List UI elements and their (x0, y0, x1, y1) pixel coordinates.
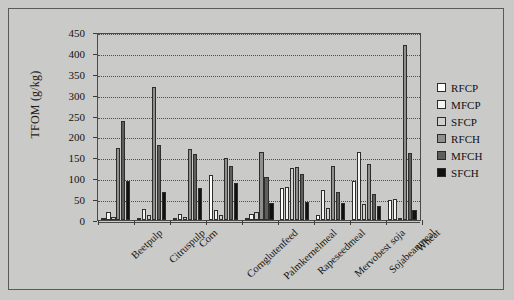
bar-mfch-4 (264, 177, 268, 220)
y-tick-mark-150 (93, 158, 97, 159)
bar-group (313, 34, 349, 220)
x-axis-labels: BeetpulpCitruspulpCornCornglutenfeedPalm… (97, 223, 421, 300)
bar-rfch-4 (259, 152, 263, 220)
bar-rfch-7 (367, 164, 371, 220)
figure-frame: TFOM (g/kg) 050100150200250300350400450 … (8, 8, 504, 290)
y-tick-mark-300 (93, 96, 97, 97)
legend-label: MFCP (451, 99, 481, 111)
bar-rfch-1 (152, 87, 156, 220)
y-tick-mark-100 (93, 179, 97, 180)
legend-item-rfch[interactable]: RFCH (437, 130, 509, 147)
y-tick-300: 300 (25, 90, 85, 102)
y-tick-mark-250 (93, 117, 97, 118)
y-tick-mark-50 (93, 200, 97, 201)
x-label-8: Wheat (415, 227, 443, 254)
legend-swatch-icon (437, 168, 446, 177)
bar-sfch-8 (412, 210, 416, 220)
bar-group (170, 34, 206, 220)
legend-swatch-icon (437, 151, 446, 160)
bar-rfch-6 (331, 166, 335, 220)
bar-rfcp-8 (388, 200, 392, 220)
bar-sfcp-6 (326, 208, 330, 220)
chart-legend: RFCPMFCPSFCPRFCHMFCHSFCH (437, 79, 509, 181)
bar-mfch-7 (372, 194, 376, 220)
legend-item-mfch[interactable]: MFCH (437, 147, 509, 164)
bar-mfch-1 (157, 145, 161, 220)
bar-group (277, 34, 313, 220)
x-tick-9 (422, 220, 423, 225)
bar-sfch-1 (162, 192, 166, 220)
bar-sfcp-4 (254, 212, 258, 220)
bar-mfch-8 (408, 153, 412, 220)
bar-mfcp-8 (393, 199, 397, 220)
bar-sfcp-5 (290, 168, 294, 220)
legend-label: RFCH (451, 133, 480, 145)
bar-sfch-7 (377, 206, 381, 220)
legend-swatch-icon (437, 100, 446, 109)
bar-group (241, 34, 277, 220)
bar-group (134, 34, 170, 220)
legend-item-mfcp[interactable]: MFCP (437, 96, 509, 113)
bar-sfch-5 (305, 202, 309, 220)
y-tick-mark-400 (93, 54, 97, 55)
y-tick-mark-200 (93, 137, 97, 138)
bar-rfcp-7 (352, 181, 356, 220)
y-tick-0: 0 (25, 215, 85, 227)
bar-mfch-6 (336, 192, 340, 220)
y-tick-350: 350 (25, 69, 85, 81)
legend-label: RFCP (451, 82, 478, 94)
bar-mfcp-7 (357, 152, 361, 220)
bar-mfcp-6 (321, 190, 325, 220)
bar-rfch-0 (116, 148, 120, 220)
chart-figure: TFOM (g/kg) 050100150200250300350400450 … (0, 0, 514, 300)
bar-group (98, 34, 134, 220)
legend-swatch-icon (437, 117, 446, 126)
bar-mfcp-5 (285, 187, 289, 220)
legend-item-sfch[interactable]: SFCH (437, 164, 509, 181)
bar-sfcp-7 (362, 204, 366, 220)
bar-mfcp-3 (214, 210, 218, 220)
bar-sfch-2 (198, 188, 202, 220)
bar-rfch-3 (224, 158, 228, 220)
legend-label: MFCH (451, 150, 483, 162)
legend-item-rfcp[interactable]: RFCP (437, 79, 509, 96)
y-tick-100: 100 (25, 173, 85, 185)
bar-mfch-0 (121, 121, 125, 220)
bar-group (384, 34, 420, 220)
bar-mfcp-0 (106, 212, 110, 220)
bar-rfch-5 (295, 167, 299, 220)
y-tick-450: 450 (25, 27, 85, 39)
bar-rfcp-3 (209, 175, 213, 220)
bar-mfcp-1 (142, 209, 146, 220)
plot-area (97, 33, 421, 221)
bar-rfch-8 (403, 45, 407, 220)
bar-mfch-2 (193, 154, 197, 220)
bar-sfch-6 (341, 203, 345, 220)
bar-rfcp-5 (280, 188, 284, 220)
y-tick-200: 200 (25, 131, 85, 143)
y-tick-400: 400 (25, 48, 85, 60)
bar-groups (98, 34, 420, 220)
bar-mfch-3 (229, 166, 233, 220)
legend-item-sfcp[interactable]: SFCP (437, 113, 509, 130)
y-tick-150: 150 (25, 152, 85, 164)
x-label-0: Beetpulp (130, 227, 165, 261)
legend-label: SFCP (451, 116, 477, 128)
y-tick-250: 250 (25, 111, 85, 123)
bar-mfch-5 (300, 174, 304, 220)
legend-swatch-icon (437, 83, 446, 92)
y-tick-mark-0 (93, 221, 97, 222)
legend-label: SFCH (451, 167, 479, 179)
bar-sfch-0 (126, 181, 130, 220)
bar-sfch-4 (269, 203, 273, 220)
bar-sfch-3 (234, 183, 238, 220)
y-tick-50: 50 (25, 194, 85, 206)
bar-rfch-2 (188, 149, 192, 220)
bar-group (348, 34, 384, 220)
y-tick-mark-450 (93, 33, 97, 34)
y-tick-mark-350 (93, 75, 97, 76)
legend-swatch-icon (437, 134, 446, 143)
bar-group (205, 34, 241, 220)
